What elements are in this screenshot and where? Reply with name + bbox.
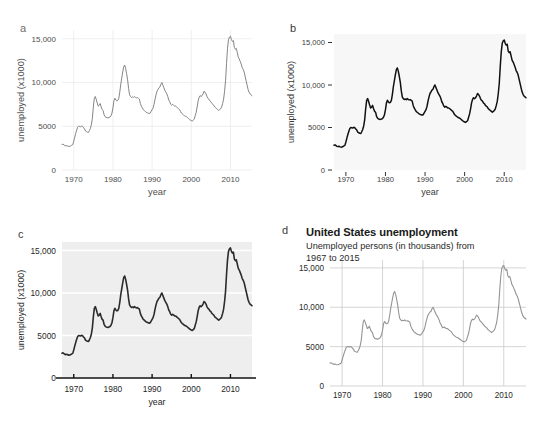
y-tick-label: 10,000 (32, 78, 57, 87)
panel-letter-a: a (20, 22, 26, 34)
y-axis-title: unemployed (x1000) (16, 270, 26, 350)
x-tick-label: 2010 (222, 175, 240, 184)
data-line-unemployed (330, 266, 526, 365)
panel-letter-c: c (18, 228, 24, 240)
y-tick-label: 10,000 (299, 303, 324, 312)
x-tick-label: 1980 (104, 384, 123, 394)
x-tick-label: 2010 (495, 391, 514, 400)
panel-letter-b: b (290, 22, 296, 34)
y-tick-label: 15,000 (302, 38, 325, 47)
x-tick-label: 1990 (417, 175, 434, 184)
x-tick-label: 1990 (414, 391, 433, 400)
x-tick-label: 2010 (496, 175, 513, 184)
y-tick-label: 15,000 (32, 35, 57, 44)
x-tick-label: 1970 (337, 175, 354, 184)
y-tick-label: 5000 (306, 343, 325, 352)
chart-a: 0500010,00015,00019701980199020002010yea… (0, 0, 272, 214)
y-axis-title: unemployed (x1000) (286, 61, 296, 143)
y-tick-label: 5000 (308, 123, 325, 132)
x-tick-label: 1980 (377, 175, 394, 184)
chart-title: United States unemployment (306, 226, 458, 238)
x-tick-label: 2000 (454, 391, 473, 400)
x-tick-label: 2010 (221, 384, 240, 394)
y-tick-label: 5000 (38, 122, 56, 131)
panel-b: b 0500010,00015,00019701980199020002010y… (272, 0, 545, 214)
y-tick-label: 15,000 (299, 264, 324, 273)
x-axis-title: year (148, 187, 166, 197)
x-axis-title: year (148, 397, 165, 407)
panel-d: d United States unemployment Unemployed … (272, 214, 545, 428)
y-tick-label: 5000 (37, 331, 56, 341)
x-tick-label: 2000 (456, 175, 473, 184)
y-tick-label: 10,000 (302, 81, 325, 90)
x-tick-label: 1970 (65, 175, 83, 184)
x-tick-label: 1980 (104, 175, 122, 184)
x-tick-label: 1980 (373, 391, 392, 400)
data-line-unemployed (62, 36, 252, 146)
panel-letter-d: d (282, 224, 288, 236)
x-axis-title: year (421, 187, 439, 197)
chart-b: 0500010,00015,00019701980199020002010yea… (272, 0, 545, 214)
y-tick-label: 0 (52, 166, 57, 175)
chart-subtitle: Unemployed persons (in thousands) from 1… (306, 241, 486, 264)
panel-c: c 0500010,00015,00019701980199020002010y… (0, 214, 272, 428)
y-tick-label: 0 (319, 382, 324, 391)
x-tick-label: 1990 (143, 384, 162, 394)
chart-c: 0500010,00015,00019701980199020002010yea… (0, 214, 272, 428)
panel-a: a 0500010,00015,00019701980199020002010y… (0, 0, 272, 214)
y-tick-label: 0 (51, 373, 56, 383)
figure-panel-grid: a 0500010,00015,00019701980199020002010y… (0, 0, 545, 428)
x-tick-label: 2000 (182, 384, 201, 394)
y-tick-label: 15,000 (30, 246, 56, 256)
x-tick-label: 2000 (182, 175, 200, 184)
y-tick-label: 0 (321, 166, 325, 175)
x-tick-label: 1970 (333, 391, 352, 400)
y-axis-title: unemployed (x1000) (16, 58, 26, 142)
x-tick-label: 1970 (64, 384, 83, 394)
x-tick-label: 1990 (143, 175, 161, 184)
y-tick-label: 10,000 (30, 288, 56, 298)
